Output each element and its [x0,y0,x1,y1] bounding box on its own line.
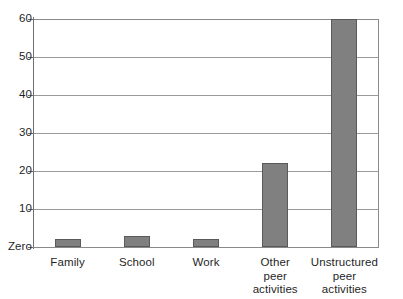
x-axis-category-label: Work [171,256,240,270]
y-axis-tick-label: Zero [8,241,32,253]
x-axis-category-label-line: activities [241,283,310,297]
plot-area [33,19,379,247]
x-axis-category-label-line: peer [241,270,310,284]
bar-chart: Zero102030405060 FamilySchoolWorkOtherpe… [0,0,403,299]
x-axis-category-label: School [102,256,171,270]
x-axis-category-label: Otherpeeractivities [241,256,310,297]
x-axis-category-label-line: peer activities [310,270,379,297]
y-axis-tick-label: 30 [19,127,32,139]
x-axis-category-label-line: Family [33,256,102,270]
bar [331,19,357,247]
bar [124,236,150,247]
x-axis-category-label-line: Other [241,256,310,270]
x-axis-category-label-line: Unstructured [310,256,379,270]
bar [55,239,81,247]
y-axis-tick-label: 40 [19,89,32,101]
x-axis-category-label: Unstructuredpeer activities [310,256,379,297]
x-axis-category-label-line: School [102,256,171,270]
y-axis-tick-label: 10 [19,203,32,215]
x-axis-category-label: Family [33,256,102,270]
x-axis-baseline [33,247,379,248]
y-axis-tick-label: 50 [19,51,32,63]
x-axis-category-label-line: Work [171,256,240,270]
bar [262,163,288,247]
y-axis-tick-label: 60 [19,13,32,25]
y-axis-tick-label: 20 [19,165,32,177]
bar [193,239,219,247]
